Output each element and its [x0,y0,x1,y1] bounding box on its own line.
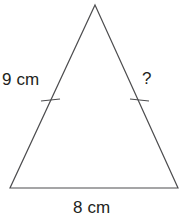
base-length-label: 8 cm [73,198,110,218]
left-side-length-label: 9 cm [2,70,39,90]
right-side-unknown-label: ? [142,69,152,89]
geometry-figure: 9 cm ? 8 cm [0,0,183,219]
triangle-shape [0,0,183,219]
triangle-outline [10,5,178,188]
